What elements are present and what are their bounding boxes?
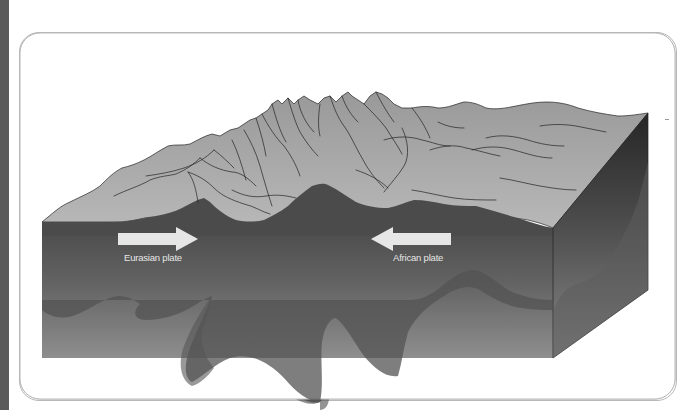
presentation-diagram <box>0 0 685 410</box>
eurasian-plate-label: Eurasian plate <box>124 252 182 263</box>
african-plate-label: African plate <box>393 252 443 263</box>
margin-mark-top <box>665 119 669 120</box>
